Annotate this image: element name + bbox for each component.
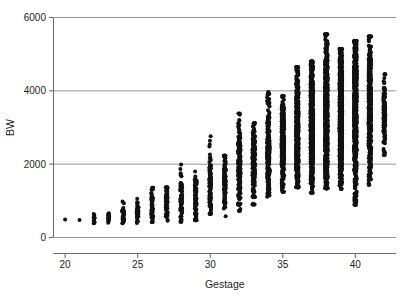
- data-point: [252, 146, 256, 150]
- data-point: [369, 71, 373, 75]
- data-point: [294, 173, 298, 177]
- data-point: [340, 85, 344, 89]
- data-point: [368, 154, 372, 158]
- data-point: [367, 52, 371, 56]
- data-point: [383, 133, 387, 137]
- data-point: [382, 81, 386, 85]
- data-point: [383, 141, 387, 145]
- data-point: [339, 66, 343, 70]
- data-point: [281, 116, 285, 120]
- data-point: [267, 136, 271, 140]
- data-point: [295, 95, 299, 99]
- data-point: [310, 69, 314, 73]
- data-point: [309, 92, 313, 96]
- data-point: [179, 214, 183, 218]
- data-point: [281, 106, 285, 110]
- data-point: [368, 126, 372, 130]
- data-point: [106, 219, 110, 223]
- data-point: [339, 89, 343, 93]
- x-tick-label-40: 40: [350, 259, 362, 270]
- data-point: [180, 208, 184, 212]
- data-point: [150, 220, 154, 224]
- data-point: [267, 185, 271, 189]
- data-point: [353, 167, 357, 171]
- data-point: [252, 158, 256, 162]
- data-point: [310, 96, 314, 100]
- data-point: [325, 130, 329, 134]
- data-point: [252, 127, 256, 131]
- data-point: [296, 144, 300, 148]
- data-point: [352, 98, 356, 102]
- data-point: [209, 195, 213, 199]
- data-point: [310, 150, 314, 154]
- data-point: [208, 143, 212, 147]
- y-tick-label-0: 0: [40, 232, 46, 243]
- data-point: [338, 70, 342, 74]
- data-point: [296, 83, 300, 87]
- data-point: [323, 145, 327, 149]
- data-point: [78, 218, 82, 222]
- data-point: [369, 45, 373, 49]
- data-point: [178, 167, 182, 171]
- data-point: [238, 113, 242, 117]
- data-point: [368, 170, 372, 174]
- data-point: [238, 188, 242, 192]
- data-point: [252, 181, 256, 185]
- data-point: [121, 214, 125, 218]
- data-point: [353, 72, 357, 76]
- data-point: [311, 182, 315, 186]
- data-point: [340, 166, 344, 170]
- data-point: [251, 171, 255, 175]
- data-point: [367, 57, 371, 61]
- data-point: [382, 86, 386, 90]
- data-point: [338, 159, 342, 163]
- data-point: [237, 163, 241, 167]
- data-point: [354, 179, 358, 183]
- data-point: [325, 169, 329, 173]
- data-point: [340, 95, 344, 99]
- data-point: [311, 116, 315, 120]
- data-point: [236, 125, 240, 129]
- data-point: [223, 181, 227, 185]
- data-point: [194, 204, 198, 208]
- data-point: [325, 39, 329, 43]
- data-point: [352, 53, 356, 57]
- data-point: [294, 102, 298, 106]
- data-point: [325, 107, 329, 111]
- data-point: [353, 158, 357, 162]
- data-point: [353, 59, 357, 63]
- data-point: [339, 59, 343, 63]
- data-point: [325, 126, 329, 130]
- data-point: [325, 163, 329, 167]
- data-point: [164, 208, 168, 212]
- data-point: [382, 115, 386, 119]
- data-point: [324, 156, 328, 160]
- data-point: [237, 147, 241, 151]
- chart-canvas: 02000400060002025303540 Gestage BW: [0, 0, 407, 298]
- data-point: [224, 214, 228, 218]
- data-point: [281, 164, 285, 168]
- data-point: [294, 74, 298, 78]
- data-point: [367, 178, 371, 182]
- data-point: [368, 140, 372, 144]
- data-point: [268, 167, 272, 171]
- data-point: [237, 118, 241, 122]
- y-axis-title: BW: [4, 119, 16, 136]
- data-point: [296, 69, 300, 73]
- data-point: [310, 60, 314, 64]
- scatter-plot-figure: 02000400060002025303540 Gestage BW: [0, 0, 407, 298]
- data-point: [266, 117, 270, 121]
- data-point: [281, 121, 285, 125]
- data-point: [309, 63, 313, 67]
- data-point: [295, 168, 299, 172]
- data-point: [238, 180, 242, 184]
- data-point: [252, 187, 256, 191]
- data-point: [253, 154, 257, 158]
- data-point: [194, 187, 198, 191]
- data-point: [282, 94, 286, 98]
- data-point: [323, 140, 327, 144]
- data-point: [325, 77, 329, 81]
- data-point: [280, 181, 284, 185]
- data-point: [367, 105, 371, 109]
- data-point: [367, 183, 371, 187]
